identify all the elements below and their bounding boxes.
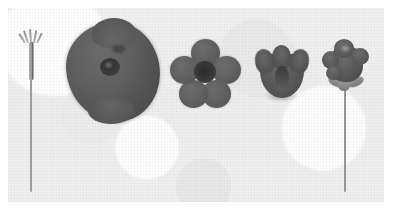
lobe-right bbox=[288, 47, 312, 75]
petal-highlight bbox=[340, 45, 351, 52]
petal-lower-left bbox=[179, 80, 208, 108]
specimen-3-face-view-five-petal-flower bbox=[168, 38, 244, 112]
lobe-c bbox=[351, 48, 369, 65]
filament bbox=[29, 29, 32, 43]
filament-tuft bbox=[23, 28, 39, 43]
specimen-2-flattened-corolla bbox=[62, 18, 166, 128]
specimen-5-flower-on-stem-with-calyx bbox=[312, 26, 382, 192]
lobe-d bbox=[326, 66, 342, 80]
flower-center bbox=[194, 61, 216, 83]
lower-lobe bbox=[88, 98, 134, 124]
upper-lobe bbox=[92, 18, 136, 48]
specimen-plate bbox=[0, 0, 396, 212]
specimen-1-pedicel-with-stamen-tuft bbox=[14, 20, 50, 192]
pedicel bbox=[344, 88, 346, 192]
eye-highlight bbox=[105, 62, 112, 68]
throat bbox=[275, 66, 289, 90]
slender-stem bbox=[30, 42, 32, 192]
filament bbox=[36, 33, 43, 44]
specimen-4-oblique-cup-corolla bbox=[250, 40, 316, 108]
surface-marking bbox=[112, 45, 125, 53]
